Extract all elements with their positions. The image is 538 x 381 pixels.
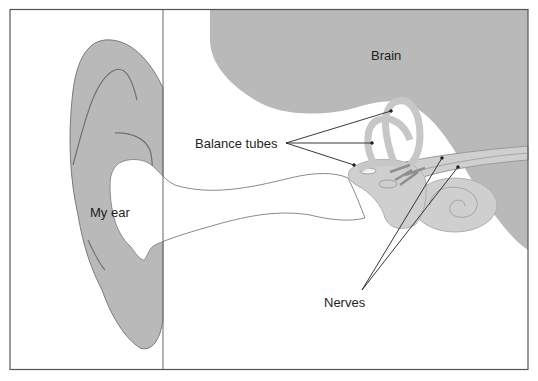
label-balance-tubes: Balance tubes [195,137,277,150]
oval-window [379,180,397,188]
label-my-ear: My ear [90,206,130,219]
diagram-canvas [0,0,538,381]
ear-anatomy-diagram: Brain Balance tubes My ear Nerves [0,0,538,381]
ear-canal-shape [110,160,365,261]
label-nerves: Nerves [324,296,365,309]
label-brain: Brain [371,49,401,62]
